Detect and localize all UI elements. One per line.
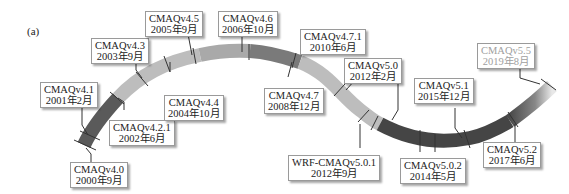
milestone-version: CMAQv4.7 <box>268 90 320 101</box>
milestone-version: CMAQv4.4 <box>168 97 220 108</box>
ribbon-segment-v4.6-v4.7 <box>250 51 300 62</box>
milestone-label-v4.7: CMAQv4.7 2008年12月 <box>264 88 324 114</box>
milestone-label-v4.0: CMAQv4.0 2000年9月 <box>70 162 128 188</box>
milestone-version: CMAQv4.3 <box>95 40 145 51</box>
milestone-date: 2010年6月 <box>304 42 362 53</box>
milestone-label-v5.5: CMAQv5.5 2019年8月 <box>477 43 535 69</box>
milestone-version: WRF-CMAQv5.0.1 <box>292 157 376 168</box>
milestone-date: 2005年9月 <box>149 24 199 35</box>
milestone-label-v4.4: CMAQv4.4 2004年10月 <box>164 95 224 121</box>
milestone-date: 2006年10月 <box>222 24 274 35</box>
milestone-date: 2002年6月 <box>113 133 171 144</box>
milestone-label-v5.0.2: CMAQv5.0.2 2014年5月 <box>400 158 466 184</box>
milestone-version: CMAQv4.5 <box>149 13 199 24</box>
milestone-date: 2000年9月 <box>74 175 124 186</box>
milestone-version: CMAQv5.2 <box>487 144 537 155</box>
milestone-version: CMAQv5.5 <box>481 45 531 56</box>
milestone-label-v4.1: CMAQv4.1 2001年2月 <box>40 82 98 108</box>
milestone-date: 2017年6月 <box>487 155 537 166</box>
milestone-version: CMAQv5.0 <box>348 60 398 71</box>
milestone-label-v4.5: CMAQv4.5 2005年9月 <box>145 11 203 37</box>
milestone-date: 2014年5月 <box>404 171 462 182</box>
milestone-label-v5.1: CMAQv5.1 2015年12月 <box>414 78 474 104</box>
milestone-date: 2003年9月 <box>95 51 145 62</box>
milestone-label-v5.2: CMAQv5.2 2017年6月 <box>483 142 541 168</box>
milestone-label-v4.7.1: CMAQv4.7.1 2010年6月 <box>300 29 366 55</box>
milestone-date: 2012年2月 <box>348 71 398 82</box>
milestone-date: 2019年8月 <box>481 56 531 67</box>
milestone-version: CMAQv5.0.2 <box>404 160 462 171</box>
panel-label: (a) <box>27 25 39 37</box>
cmaq-version-timeline: (a) CMAQv4.0 2000年9月 CMAQv4.1 2001年2月 CM… <box>0 0 569 194</box>
milestone-version: CMAQv5.1 <box>418 80 470 91</box>
milestone-label-v4.6: CMAQv4.6 2006年10月 <box>218 11 278 37</box>
milestone-version: CMAQv4.2.1 <box>113 122 171 133</box>
milestone-date: 2008年12月 <box>268 101 320 112</box>
milestone-date: 2004年10月 <box>168 108 220 119</box>
milestone-label-v4.3: CMAQv4.3 2003年9月 <box>91 38 149 64</box>
milestone-version: CMAQv4.0 <box>74 164 124 175</box>
milestone-date: 2012年9月 <box>292 168 376 179</box>
ribbon-segment-v5.2-v5.5 <box>510 86 552 121</box>
milestone-date: 2015年12月 <box>418 91 470 102</box>
milestone-version: CMAQv4.1 <box>44 84 94 95</box>
ribbon-segment-v5.0-v5.2 <box>380 121 510 141</box>
milestone-version: CMAQv4.6 <box>222 13 274 24</box>
milestone-label-wrf-v5.0.1: WRF-CMAQv5.0.1 2012年9月 <box>288 155 380 181</box>
milestone-version: CMAQv4.7.1 <box>304 31 362 42</box>
milestone-label-v4.2.1: CMAQv4.2.1 2002年6月 <box>109 120 175 146</box>
milestone-label-v5.0: CMAQv5.0 2012年2月 <box>344 58 402 84</box>
milestone-date: 2001年2月 <box>44 95 94 106</box>
